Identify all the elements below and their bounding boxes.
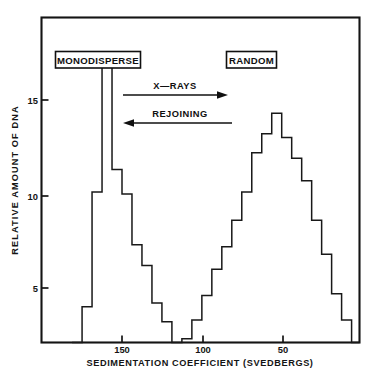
x-axis-tick-labels: 150 100 50 (114, 344, 288, 355)
x-axis-label: SEDIMENTATION COEFFICIENT (SVEDBERGS) (86, 358, 313, 368)
xrays-label: X—RAYS (153, 81, 196, 91)
random-label-text: RANDOM (229, 55, 274, 66)
figure-container: 15 10 5 150 100 50 SEDIMENTATION COEFFIC… (0, 0, 380, 380)
monodisperse-label-text: MONODISPERSE (57, 55, 139, 66)
monodisperse-annotation: MONODISPERSE (56, 52, 141, 69)
xrays-arrow-head (217, 91, 228, 99)
x-tick-label-150: 150 (114, 344, 130, 355)
y-axis-label: RELATIVE AMOUNT OF DNA (10, 105, 20, 254)
histogram-step-curve (72, 53, 359, 343)
xrays-annotation: X—RAYS (123, 81, 228, 99)
y-tick-label-5: 5 (33, 283, 38, 294)
sedimentation-chart: 15 10 5 150 100 50 SEDIMENTATION COEFFIC… (0, 0, 380, 380)
rejoining-label: REJOINING (152, 109, 208, 119)
x-tick-label-100: 100 (195, 344, 211, 355)
rejoining-arrow-head (123, 119, 134, 127)
y-axis-tick-labels: 15 10 5 (28, 95, 38, 294)
random-annotation: RANDOM (227, 52, 277, 69)
x-tick-label-50: 50 (278, 344, 288, 355)
rejoining-annotation: REJOINING (123, 109, 232, 127)
y-tick-label-15: 15 (28, 95, 38, 106)
y-tick-label-10: 10 (28, 191, 38, 202)
